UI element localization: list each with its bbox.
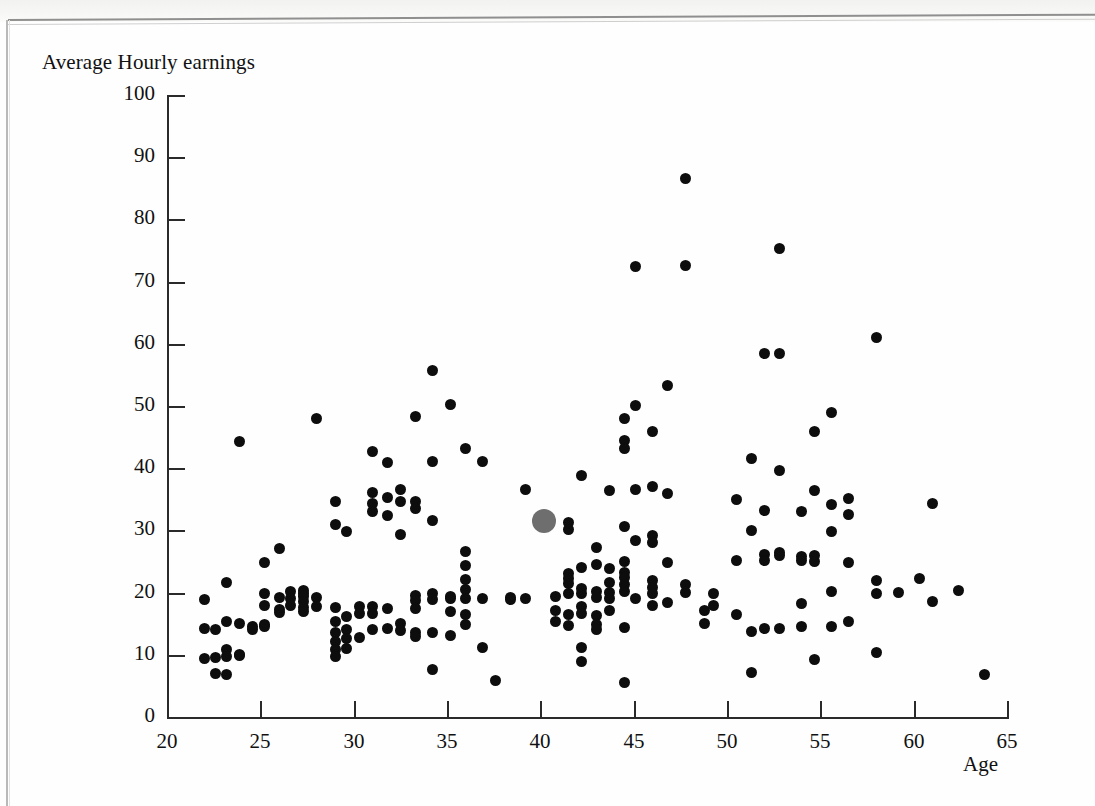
highlighted-data-point bbox=[532, 509, 556, 533]
x-tick-label: 65 bbox=[967, 729, 1047, 754]
data-point bbox=[259, 588, 270, 599]
data-point bbox=[914, 573, 925, 584]
data-point bbox=[826, 499, 837, 510]
y-tick bbox=[169, 95, 185, 97]
y-tick bbox=[169, 282, 185, 284]
data-point bbox=[647, 600, 658, 611]
data-point bbox=[647, 588, 658, 599]
data-point bbox=[796, 598, 807, 609]
data-point bbox=[274, 543, 285, 554]
data-point bbox=[445, 630, 456, 641]
data-point bbox=[699, 618, 710, 629]
data-point bbox=[330, 651, 341, 662]
data-point bbox=[460, 560, 471, 571]
x-tick-label: 20 bbox=[127, 729, 207, 754]
data-point bbox=[576, 588, 587, 599]
data-point bbox=[210, 624, 221, 635]
data-point bbox=[382, 623, 393, 634]
data-point bbox=[259, 621, 270, 632]
data-point bbox=[234, 618, 245, 629]
y-tick bbox=[169, 593, 185, 595]
data-point bbox=[382, 510, 393, 521]
x-tick bbox=[540, 701, 542, 717]
y-tick-label: 40 bbox=[55, 454, 155, 479]
y-tick bbox=[169, 717, 185, 719]
data-point bbox=[871, 588, 882, 599]
x-tick bbox=[354, 701, 356, 717]
data-point bbox=[759, 505, 770, 516]
data-point bbox=[619, 622, 630, 633]
data-point bbox=[630, 593, 641, 604]
data-point bbox=[774, 550, 785, 561]
y-tick-label: 70 bbox=[55, 268, 155, 293]
data-point bbox=[410, 411, 421, 422]
data-point bbox=[367, 506, 378, 517]
data-point bbox=[774, 348, 785, 359]
data-point bbox=[893, 587, 904, 598]
data-point bbox=[619, 413, 630, 424]
x-tick-label: 25 bbox=[220, 729, 300, 754]
data-point bbox=[604, 605, 615, 616]
data-point bbox=[662, 488, 673, 499]
data-point bbox=[221, 669, 232, 680]
data-point bbox=[395, 484, 406, 495]
x-tick bbox=[727, 701, 729, 717]
data-point bbox=[477, 642, 488, 653]
data-point bbox=[680, 260, 691, 271]
data-point bbox=[311, 413, 322, 424]
data-point bbox=[410, 603, 421, 614]
y-tick-label: 100 bbox=[55, 81, 155, 106]
data-point bbox=[199, 623, 210, 634]
data-point bbox=[210, 668, 221, 679]
y-tick-label: 30 bbox=[55, 516, 155, 541]
data-point bbox=[382, 603, 393, 614]
data-point bbox=[796, 621, 807, 632]
data-point bbox=[330, 496, 341, 507]
data-point bbox=[445, 606, 456, 617]
data-point bbox=[871, 647, 882, 658]
x-tick bbox=[820, 701, 822, 717]
data-point bbox=[367, 624, 378, 635]
x-tick bbox=[167, 701, 169, 717]
data-point bbox=[619, 677, 630, 688]
data-point bbox=[576, 608, 587, 619]
data-point bbox=[311, 601, 322, 612]
data-point bbox=[563, 588, 574, 599]
data-point bbox=[746, 626, 757, 637]
y-tick bbox=[169, 344, 185, 346]
data-point bbox=[826, 526, 837, 537]
data-point bbox=[576, 656, 587, 667]
data-point bbox=[576, 562, 587, 573]
data-point bbox=[630, 535, 641, 546]
data-point bbox=[927, 596, 938, 607]
data-point bbox=[460, 619, 471, 630]
data-point bbox=[809, 485, 820, 496]
data-point bbox=[647, 481, 658, 492]
x-tick bbox=[1007, 701, 1009, 717]
data-point bbox=[809, 426, 820, 437]
x-tick-label: 45 bbox=[594, 729, 674, 754]
data-point bbox=[563, 524, 574, 535]
data-point bbox=[826, 407, 837, 418]
data-point bbox=[550, 616, 561, 627]
data-point bbox=[731, 609, 742, 620]
data-point bbox=[759, 623, 770, 634]
data-point bbox=[826, 621, 837, 632]
data-point bbox=[647, 426, 658, 437]
data-point bbox=[341, 611, 352, 622]
data-point bbox=[550, 605, 561, 616]
data-point bbox=[427, 365, 438, 376]
data-point bbox=[731, 555, 742, 566]
data-point bbox=[490, 675, 501, 686]
data-point bbox=[809, 556, 820, 567]
data-point bbox=[259, 557, 270, 568]
data-point bbox=[460, 546, 471, 557]
data-point bbox=[330, 519, 341, 530]
data-point bbox=[427, 627, 438, 638]
data-point bbox=[330, 616, 341, 627]
data-point bbox=[395, 496, 406, 507]
data-point bbox=[746, 453, 757, 464]
data-point bbox=[221, 651, 232, 662]
data-point bbox=[708, 588, 719, 599]
data-point bbox=[199, 594, 210, 605]
